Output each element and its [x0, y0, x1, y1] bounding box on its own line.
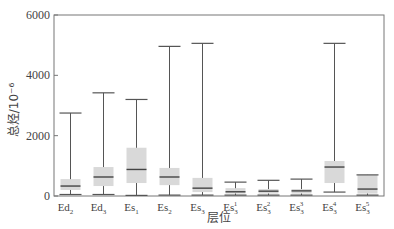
box-3: [159, 46, 181, 195]
y-tick-label: 0: [44, 189, 50, 203]
x-tick-label: Es33: [289, 200, 304, 216]
x-tick-label: Es34: [322, 200, 337, 216]
box-4: [192, 43, 214, 195]
x-tick-label: Es3: [190, 201, 205, 216]
x-tick-label: Es32: [256, 200, 271, 216]
box-5: [225, 182, 247, 195]
box-1: [93, 93, 115, 195]
y-tick-label: 4000: [26, 68, 50, 82]
x-tick-label: Ed2: [58, 201, 74, 216]
box-7: [291, 179, 313, 195]
y-axis: 0200040006000: [26, 8, 58, 203]
box-6: [258, 180, 280, 195]
box-0: [60, 113, 82, 194]
box-series: [60, 43, 379, 195]
x-axis-title: 层位: [207, 210, 231, 225]
x-tick-label: Es1: [124, 201, 139, 216]
y-tick-label: 6000: [26, 8, 50, 22]
box-2: [126, 99, 148, 195]
x-tick-label: Es2: [157, 201, 172, 216]
x-tick-label: Ed3: [91, 201, 107, 216]
y-axis-title: 总烃/10⁻⁶: [7, 83, 21, 138]
box-9: [357, 175, 379, 195]
x-tick-label: Es35: [355, 200, 370, 216]
box-plot-chart: 0200040006000 Ed2Ed3Es1Es2Es3Es31Es32Es3…: [0, 0, 394, 229]
box-8: [324, 43, 346, 192]
y-tick-label: 2000: [26, 129, 50, 143]
